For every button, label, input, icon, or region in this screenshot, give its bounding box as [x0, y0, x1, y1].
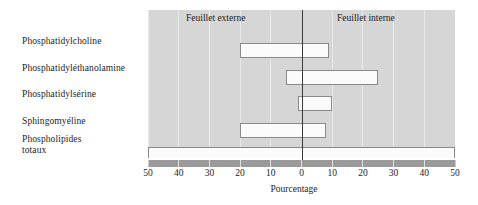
gridline [178, 10, 179, 158]
axis-tick [455, 160, 456, 167]
axis-tick [301, 160, 302, 167]
axis-tick [393, 160, 394, 167]
axis-tick-label: 50 [450, 168, 460, 178]
axis-tick [209, 160, 210, 167]
gridline [209, 10, 210, 158]
category-label-phosphatidylcholine: Phosphatidylcholine [22, 36, 101, 47]
axis-tick [270, 160, 271, 167]
axis-tick [148, 160, 149, 167]
category-label-totaux: totaux [22, 145, 46, 156]
axis-tick [332, 160, 333, 167]
gridline [148, 10, 149, 158]
axis-tick [178, 160, 179, 167]
axis-tick-label: 10 [327, 168, 337, 178]
axis-strip [148, 160, 455, 167]
category-label-sphingomyeline: Sphingomyéline [22, 116, 86, 127]
figure: Phosphatidylcholine Phosphatidyléthanola… [0, 0, 478, 205]
gridline [393, 10, 394, 158]
gridline [424, 10, 425, 158]
bar-phosphatidylcholine [240, 43, 329, 58]
axis-title-text: Pourcentage [271, 184, 318, 194]
gridline [455, 10, 456, 158]
axis-tick [424, 160, 425, 167]
axis-tick-labels: 504030201001020304050 [0, 168, 478, 182]
axis-tick-label: 20 [235, 168, 245, 178]
axis-tick-label: 0 [299, 168, 304, 178]
axis-tick-label: 40 [420, 168, 430, 178]
axis-tick-label: 30 [205, 168, 215, 178]
bar-phosphatidyl-thanolamine [286, 70, 378, 85]
bar-sphingomy-line [240, 123, 326, 138]
axis-tick [240, 160, 241, 167]
axis-tick-label: 40 [174, 168, 184, 178]
region-label-feuillet-externe: Feuillet externe [186, 13, 245, 23]
axis-tick [362, 160, 363, 167]
axis-tick-label: 10 [266, 168, 276, 178]
category-label-phospholipides: Phospholipides [22, 134, 81, 145]
zero-axis-line [302, 10, 303, 165]
region-label-feuillet-interne: Feuillet interne [337, 13, 395, 23]
axis-tick-label: 30 [389, 168, 399, 178]
category-label-phosphatidylserine: Phosphatidylsérine [22, 89, 96, 100]
category-label-phosphatidylethanolamine: Phosphatidyléthanolamine [22, 63, 125, 74]
axis-tick-label: 20 [358, 168, 368, 178]
axis-title: Pourcentage [0, 184, 478, 194]
bar-phosphatidyls-rine [298, 96, 332, 111]
axis-tick-label: 50 [143, 168, 153, 178]
